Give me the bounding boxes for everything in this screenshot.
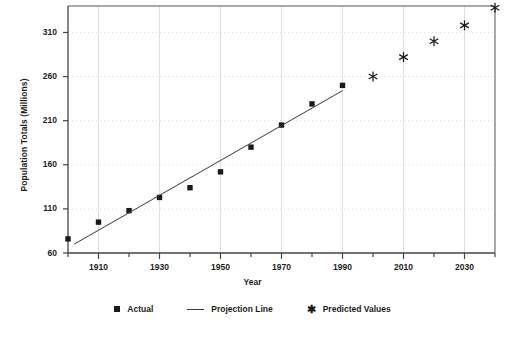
data-point-predicted xyxy=(460,20,469,30)
legend-item-projection-line: Projection Line xyxy=(187,304,272,314)
chart-legend: Actual Projection Line ✱ Predicted Value… xyxy=(0,304,505,314)
legend-item-actual: Actual xyxy=(114,304,153,314)
y-tick-label: 310 xyxy=(13,27,57,37)
legend-label-predicted-values: Predicted Values xyxy=(323,304,391,314)
data-point-predicted xyxy=(430,36,439,46)
population-projection-chart: Population Totals (Millions) Year Actual… xyxy=(0,0,505,337)
series-projection-line xyxy=(74,91,342,244)
legend-label-projection-line: Projection Line xyxy=(211,304,272,314)
x-tick-label: 1930 xyxy=(136,262,184,272)
x-axis-title: Year xyxy=(0,277,505,287)
x-tick-label: 1990 xyxy=(319,262,367,272)
x-tick-label: 1950 xyxy=(197,262,245,272)
y-tick-label: 60 xyxy=(13,248,57,258)
y-tick-label: 260 xyxy=(13,71,57,81)
legend-item-predicted-values: ✱ Predicted Values xyxy=(307,304,391,314)
x-tick-label: 2030 xyxy=(441,262,489,272)
data-point-predicted xyxy=(491,3,500,13)
y-tick-label: 210 xyxy=(13,115,57,125)
data-point-actual xyxy=(309,101,314,106)
line-marker-icon xyxy=(187,309,204,310)
data-point-actual xyxy=(65,236,70,241)
data-point-actual xyxy=(340,83,345,88)
data-point-actual xyxy=(218,169,223,174)
x-tick-label: 1910 xyxy=(75,262,123,272)
x-tick-label: 1970 xyxy=(258,262,306,272)
square-marker-icon xyxy=(114,306,120,312)
asterisk-marker-icon: ✱ xyxy=(307,306,316,312)
y-tick-label: 110 xyxy=(13,203,57,213)
legend-label-actual: Actual xyxy=(127,304,153,314)
data-point-actual xyxy=(187,185,192,190)
x-tick-label: 2010 xyxy=(380,262,428,272)
y-tick-label: 160 xyxy=(13,159,57,169)
data-point-actual xyxy=(96,219,101,224)
data-point-actual xyxy=(248,144,253,149)
data-point-predicted xyxy=(399,52,408,62)
